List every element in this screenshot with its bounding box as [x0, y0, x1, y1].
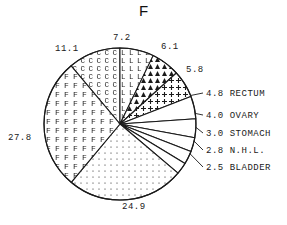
legend-leader-line: [196, 127, 203, 133]
legend-row-bladder: 2.5BLADDER: [206, 163, 271, 173]
legend-leader-line: [190, 93, 203, 96]
legend-row-ovary: 4.0OVARY: [206, 111, 259, 121]
legend-name-stomach: STOMACH: [230, 129, 271, 139]
slice-label-7-2: 7.2: [113, 33, 131, 43]
legend-leader-line: [190, 154, 203, 167]
legend-row-rectum: 4.8RECTUM: [206, 89, 265, 99]
legend-row-stomach: 3.0STOMACH: [206, 129, 271, 139]
legend-leader-line: [195, 113, 203, 115]
slice-label-11-1: 11.1: [55, 44, 79, 54]
slice-label-5-8: 5.8: [186, 65, 204, 75]
slice-label-6-1: 6.1: [161, 42, 179, 52]
legend-leader-line: [194, 141, 203, 150]
legend-value-stomach: 3.0: [206, 129, 224, 139]
legend-value-rectum: 4.8: [206, 89, 224, 99]
legend-name-nhl: N.H.L.: [230, 146, 265, 156]
legend-name-ovary: OVARY: [230, 111, 260, 121]
pie-slices-group: [44, 48, 196, 200]
legend-value-ovary: 4.0: [206, 111, 224, 121]
legend-name-bladder: BLADDER: [230, 163, 271, 173]
pie-chart-figure: F F C L: [0, 0, 287, 225]
legend-value-nhl: 2.8: [206, 146, 224, 156]
slice-label-24-9: 24.9: [122, 202, 146, 212]
legend-name-rectum: RECTUM: [230, 89, 265, 99]
legend-row-nhl: 2.8N.H.L.: [206, 146, 265, 156]
slice-label-27-8: 27.8: [8, 133, 32, 143]
legend-value-bladder: 2.5: [206, 163, 224, 173]
